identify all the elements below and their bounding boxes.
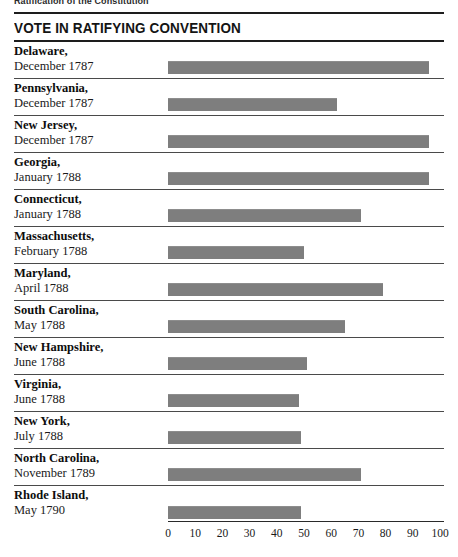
row-label: Maryland,April 1788 (14, 266, 164, 296)
x-axis-tick-label: 80 (380, 526, 392, 540)
row-plot-area (168, 116, 444, 152)
chart-row: Delaware,December 1787 (14, 42, 444, 79)
row-label: New York,July 1788 (14, 414, 164, 444)
row-plot-area (168, 264, 444, 300)
chart-row: Georgia,January 1788 (14, 153, 444, 190)
top-rule (14, 12, 444, 14)
vote-bar (168, 246, 304, 259)
x-axis-tick-label: 10 (189, 526, 201, 540)
ratification-date: June 1788 (14, 355, 164, 370)
vote-bar (168, 506, 301, 519)
row-label: Connecticut,January 1788 (14, 192, 164, 222)
x-axis-tick-label: 0 (165, 526, 171, 540)
row-label: Georgia,January 1788 (14, 155, 164, 185)
x-axis-tick-label: 70 (353, 526, 365, 540)
ratification-date: May 1790 (14, 503, 164, 518)
x-axis-line (168, 521, 444, 522)
vote-bar (168, 283, 383, 296)
vote-bar (168, 61, 429, 74)
ratification-date: June 1788 (14, 392, 164, 407)
x-axis-tick-label: 100 (431, 526, 448, 540)
state-name: Massachusetts, (14, 229, 164, 244)
row-plot-area (168, 375, 444, 411)
page-title: VOTE IN RATIFYING CONVENTION (14, 20, 414, 37)
chart-row: Rhode Island,May 1790 (14, 486, 444, 523)
x-axis-tick-label: 60 (325, 526, 337, 540)
row-plot-area (168, 486, 444, 523)
state-name: Georgia, (14, 155, 164, 170)
state-name: Connecticut, (14, 192, 164, 207)
ratification-date: May 1788 (14, 318, 164, 333)
state-name: South Carolina, (14, 303, 164, 318)
row-plot-area (168, 42, 444, 78)
vote-bar (168, 357, 307, 370)
x-axis-tick-label: 30 (244, 526, 256, 540)
chart-row: Pennsylvania,December 1787 (14, 79, 444, 116)
running-head: Ratification of the Constitution (14, 0, 314, 5)
chart-row: New Jersey,December 1787 (14, 116, 444, 153)
state-name: New York, (14, 414, 164, 429)
state-name: Virginia, (14, 377, 164, 392)
row-label: Delaware,December 1787 (14, 44, 164, 74)
x-axis-tick-label: 50 (298, 526, 310, 540)
ratification-date: February 1788 (14, 244, 164, 259)
row-plot-area (168, 79, 444, 115)
x-axis: 0102030405060708090100 (14, 521, 444, 551)
ratification-date: December 1787 (14, 133, 164, 148)
chart-row: Maryland,April 1788 (14, 264, 444, 301)
row-plot-area (168, 338, 444, 374)
vote-bar (168, 320, 345, 333)
vote-bar (168, 172, 429, 185)
chart-row: Massachusetts,February 1788 (14, 227, 444, 264)
row-label: Pennsylvania,December 1787 (14, 81, 164, 111)
state-name: Pennsylvania, (14, 81, 164, 96)
ratification-date: July 1788 (14, 429, 164, 444)
ratification-date: January 1788 (14, 207, 164, 222)
row-plot-area (168, 227, 444, 263)
vote-bar (168, 209, 361, 222)
state-name: Delaware, (14, 44, 164, 59)
x-axis-tick-label: 90 (407, 526, 419, 540)
row-label: New Hampshire,June 1788 (14, 340, 164, 370)
vote-bar (168, 135, 429, 148)
vote-bar (168, 468, 361, 481)
ratification-vote-bar-chart: Delaware,December 1787Pennsylvania,Decem… (14, 42, 444, 523)
row-label: New Jersey,December 1787 (14, 118, 164, 148)
vote-bar (168, 431, 301, 444)
ratification-date: November 1789 (14, 466, 164, 481)
vote-bar (168, 394, 299, 407)
row-plot-area (168, 190, 444, 226)
ratification-date: January 1788 (14, 170, 164, 185)
ratification-date: December 1787 (14, 59, 164, 74)
row-plot-area (168, 449, 444, 485)
x-axis-tick-label: 20 (217, 526, 229, 540)
row-plot-area (168, 153, 444, 189)
row-label: North Carolina,November 1789 (14, 451, 164, 481)
state-name: North Carolina, (14, 451, 164, 466)
chart-row: New York,July 1788 (14, 412, 444, 449)
vote-bar (168, 98, 337, 111)
row-label: Rhode Island,May 1790 (14, 488, 164, 518)
row-label: Massachusetts,February 1788 (14, 229, 164, 259)
chart-row: South Carolina,May 1788 (14, 301, 444, 338)
row-plot-area (168, 301, 444, 337)
chart-row: New Hampshire,June 1788 (14, 338, 444, 375)
chart-row: North Carolina,November 1789 (14, 449, 444, 486)
state-name: Maryland, (14, 266, 164, 281)
ratification-date: April 1788 (14, 281, 164, 296)
state-name: New Hampshire, (14, 340, 164, 355)
row-label: Virginia,June 1788 (14, 377, 164, 407)
row-plot-area (168, 412, 444, 448)
row-label: South Carolina,May 1788 (14, 303, 164, 333)
chart-row: Connecticut,January 1788 (14, 190, 444, 227)
state-name: Rhode Island, (14, 488, 164, 503)
state-name: New Jersey, (14, 118, 164, 133)
x-axis-tick-label: 40 (271, 526, 283, 540)
ratification-date: December 1787 (14, 96, 164, 111)
chart-row: Virginia,June 1788 (14, 375, 444, 412)
